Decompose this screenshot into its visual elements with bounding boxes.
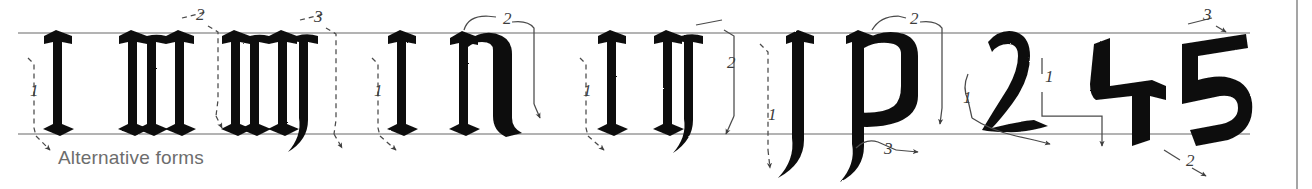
glyph-p: [840, 30, 918, 182]
stroke-label: 3: [313, 7, 323, 26]
stroke-label: 2: [727, 53, 736, 72]
glyph-group-j-p: [778, 30, 918, 182]
glyph-numeral-2: [982, 31, 1048, 132]
stroke-label: 1: [768, 105, 777, 124]
stroke-label: 2: [910, 9, 919, 28]
stroke-label: 1: [583, 81, 592, 100]
stroke-label: 3: [1202, 5, 1212, 24]
stroke-label: 2: [1186, 151, 1195, 170]
stroke-number-labels: 1 2 3 1 2 1 2 1 2 3 1 1 3 2: [30, 5, 1212, 170]
stroke-label: 1: [374, 81, 383, 100]
stroke-label: 1: [1045, 67, 1054, 86]
glyph-i-c: [597, 30, 628, 136]
guidelines: [18, 33, 1250, 134]
stroke-label: 2: [503, 9, 512, 28]
glyph-n-alt: [118, 30, 196, 136]
glyph-n-b: [449, 31, 522, 137]
glyph-i-b: [387, 30, 418, 136]
glyph-i-alt: [43, 30, 74, 136]
glyph-group-i-n-round: [387, 30, 522, 137]
stroke-label: 2: [196, 5, 205, 24]
calligraphy-plate: 1 2 3 1 2 1 2 1 2 3 1 1 3 2 Alternative …: [0, 0, 1312, 189]
glyph-group-numerals: [982, 31, 1252, 146]
stroke-label: 1: [963, 88, 972, 107]
plate-caption: Alternative forms: [58, 147, 204, 169]
glyph-j: [778, 30, 814, 178]
stroke-label: 3: [883, 139, 893, 158]
stroke-label: 1: [30, 81, 39, 100]
glyph-numeral-5: [1182, 34, 1252, 146]
